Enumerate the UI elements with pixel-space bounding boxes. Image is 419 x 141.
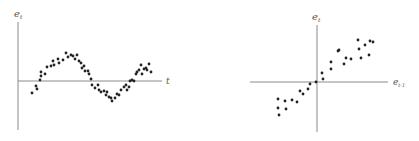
- data-point: [277, 107, 280, 110]
- left-x-axis-label: t: [166, 76, 170, 86]
- data-point: [360, 57, 363, 60]
- data-point: [277, 98, 280, 101]
- data-point: [57, 58, 60, 61]
- data-point: [81, 67, 84, 70]
- data-point: [141, 73, 144, 76]
- data-point: [83, 65, 86, 68]
- data-point: [65, 52, 68, 55]
- data-point: [315, 81, 318, 84]
- data-point: [90, 78, 93, 81]
- data-point: [98, 89, 101, 92]
- data-point: [369, 40, 372, 43]
- data-point: [322, 78, 325, 81]
- data-point: [126, 89, 129, 92]
- data-point: [150, 71, 153, 74]
- data-point: [330, 68, 333, 71]
- figure-canvas: et t et et-1: [0, 0, 419, 141]
- left-y-axis-label: et: [14, 8, 23, 20]
- data-point: [78, 60, 81, 63]
- data-point: [372, 41, 375, 44]
- data-point: [87, 70, 90, 73]
- data-point: [120, 89, 123, 92]
- data-point: [133, 80, 136, 83]
- data-point: [138, 69, 141, 72]
- data-point: [36, 88, 39, 91]
- data-point: [368, 54, 371, 57]
- data-point: [364, 44, 367, 47]
- data-point: [67, 56, 70, 59]
- data-point: [39, 79, 42, 82]
- data-point: [105, 94, 108, 97]
- data-point: [91, 84, 94, 87]
- data-point: [50, 65, 53, 68]
- data-point: [125, 84, 128, 87]
- data-point: [94, 87, 97, 90]
- data-point: [114, 97, 117, 100]
- data-point: [284, 100, 287, 103]
- data-point: [31, 92, 34, 95]
- data-point: [106, 91, 109, 94]
- right-y-axis-label: et: [312, 11, 321, 23]
- data-point: [58, 62, 61, 65]
- data-point: [74, 58, 77, 61]
- left-scatter-points: [31, 52, 153, 103]
- data-point: [291, 99, 294, 102]
- data-point: [296, 101, 299, 104]
- data-point: [140, 64, 143, 67]
- data-point: [321, 72, 324, 75]
- data-point: [52, 60, 55, 63]
- data-point: [299, 90, 302, 93]
- data-point: [136, 71, 139, 74]
- data-point: [345, 57, 348, 60]
- data-point: [44, 73, 47, 76]
- data-point: [40, 75, 43, 78]
- data-point: [110, 97, 113, 100]
- data-point: [285, 108, 288, 111]
- data-point: [343, 63, 346, 66]
- data-point: [46, 66, 49, 69]
- data-point: [148, 63, 151, 66]
- data-point: [123, 86, 126, 89]
- data-point: [76, 54, 79, 57]
- data-point: [307, 88, 310, 91]
- data-point: [97, 84, 100, 87]
- data-point: [100, 91, 103, 94]
- right-x-axis-label: et-1: [393, 77, 405, 88]
- data-point: [146, 69, 149, 72]
- data-point: [330, 61, 333, 64]
- data-point: [111, 100, 114, 103]
- data-point: [128, 86, 131, 89]
- data-point: [84, 70, 87, 73]
- data-point: [278, 114, 281, 117]
- data-point: [72, 55, 75, 58]
- data-point: [53, 64, 56, 67]
- data-point: [358, 48, 361, 51]
- data-point: [118, 94, 121, 97]
- data-point: [80, 62, 83, 65]
- data-point: [309, 83, 312, 86]
- data-point: [103, 90, 106, 93]
- data-point: [357, 39, 360, 42]
- data-point: [350, 58, 353, 61]
- data-point: [35, 85, 38, 88]
- data-point: [40, 71, 43, 74]
- right-scatter-points: [277, 39, 375, 117]
- data-point: [88, 73, 91, 76]
- data-point: [338, 49, 341, 52]
- data-point: [302, 93, 305, 96]
- right-panel-lag-plot: et et-1: [250, 11, 405, 132]
- left-panel-time-series: et t: [14, 8, 170, 130]
- data-point: [62, 59, 65, 62]
